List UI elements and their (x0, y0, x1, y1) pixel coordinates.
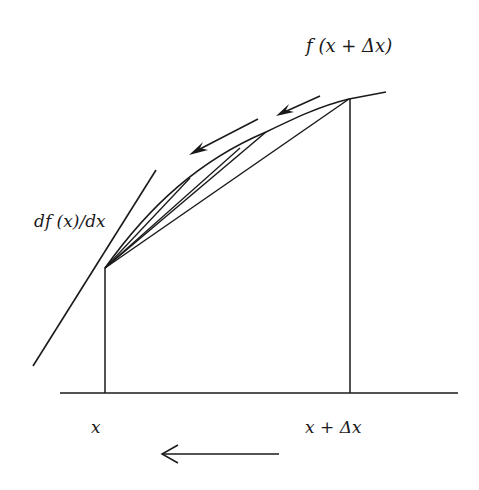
derivative-diagram (0, 0, 479, 490)
label-f-x-plus-dx: f (x + Δx) (306, 37, 392, 55)
secant-line-intermediate (105, 132, 266, 268)
arrowhead-lower (189, 142, 208, 155)
arrowhead-upper (276, 104, 294, 116)
secant-motion-arrow-lower (198, 119, 258, 150)
secant-line-nearest (105, 178, 190, 268)
secant-line-full (105, 99, 349, 268)
label-x-plus-dx: x + Δx (305, 419, 362, 436)
label-derivative: df (x)/dx (34, 213, 106, 230)
label-x: x (91, 419, 101, 436)
function-curve (105, 92, 386, 268)
secant-line-near (105, 148, 240, 268)
tangent-line (33, 170, 156, 366)
